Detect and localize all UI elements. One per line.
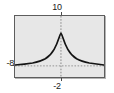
y-min-label: -2: [0, 81, 114, 91]
plot-canvas: [15, 16, 104, 77]
plot-frame: [14, 15, 105, 78]
y-min-tick-icon: [61, 78, 62, 81]
y-max-label: 10: [0, 2, 114, 12]
figure-viewport: 10 -8 -2: [0, 0, 114, 93]
curve-series-line: [15, 33, 104, 65]
x-min-label: -8: [1, 58, 14, 68]
